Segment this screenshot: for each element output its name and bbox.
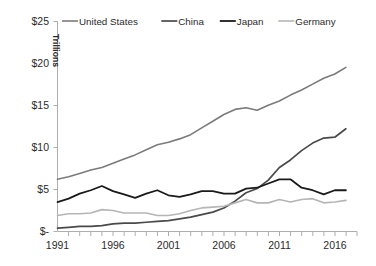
line-chart: lamiuotirl ai ainvoluu ni oilt no hoonno… (0, 0, 376, 266)
x-tick-label: 2016 (323, 239, 347, 251)
y-tick-label: $20 (31, 57, 49, 69)
legend-label: United States (79, 16, 138, 27)
chart-svg: $25 $20 $15 $10 $5 $- Trillions (0, 0, 376, 266)
legend-label: Japan (237, 16, 264, 27)
legend-label: China (178, 16, 204, 27)
x-tick-label: 2006 (212, 239, 236, 251)
chart-legend: United StatesChinaJapanGermany (62, 16, 336, 27)
y-tick-label: $5 (37, 183, 49, 195)
y-axis-title: Trillions (51, 34, 61, 67)
x-tick-label: 1996 (101, 239, 125, 251)
x-tick-label: 2001 (157, 239, 181, 251)
legend-label: Germany (295, 16, 335, 27)
x-tick-label: 2011 (268, 239, 291, 251)
x-tick-label: 1991 (46, 239, 70, 251)
y-tick-label: $25 (31, 15, 49, 27)
y-tick-label: $15 (31, 99, 49, 111)
y-tick-label: $- (40, 225, 50, 237)
y-tick-label: $10 (31, 141, 49, 153)
